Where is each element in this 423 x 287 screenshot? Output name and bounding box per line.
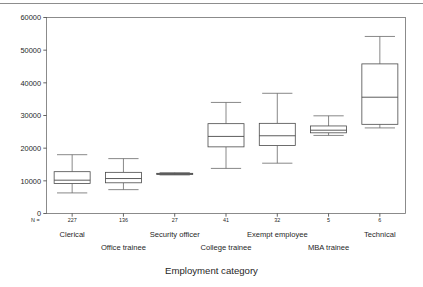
category-label: College trainee	[200, 243, 251, 252]
box-plot-item	[208, 102, 244, 168]
box-plots	[54, 36, 398, 192]
box-plot-item	[105, 159, 141, 190]
box-plot-item	[259, 93, 295, 163]
n-equals-label: N =	[31, 217, 40, 223]
category-label: Security officer	[150, 230, 201, 239]
n-count-label: 32	[274, 217, 280, 223]
box-plot-item	[54, 155, 90, 193]
category-label: Office trainee	[101, 243, 146, 252]
n-count-label: 136	[119, 217, 128, 223]
y-axis-ticks: 6000050000400003000020000100000	[20, 13, 46, 218]
category-label: Clerical	[59, 230, 85, 239]
n-count-label: 27	[172, 217, 178, 223]
n-count-label: 6	[378, 217, 381, 223]
n-labels: 22713627413256	[68, 217, 382, 223]
n-count-label: 5	[327, 217, 330, 223]
y-tick-label: 60000	[20, 13, 41, 22]
boxplot-figure: 6000050000400003000020000100000 22713627…	[0, 0, 423, 287]
page-top-rule	[0, 3, 423, 4]
category-label: Technical	[364, 230, 396, 239]
box-plot-item	[157, 173, 193, 175]
x-axis-title: Employment category	[165, 265, 258, 276]
y-tick-label: 10000	[20, 177, 41, 186]
category-label: Exempt employee	[247, 230, 308, 239]
y-tick-label: 40000	[20, 79, 41, 88]
category-labels: ClericalOffice traineeSecurity officerCo…	[59, 230, 396, 252]
y-tick-label: 20000	[20, 144, 41, 153]
box-plot-item	[362, 36, 398, 127]
n-count-label: 227	[68, 217, 77, 223]
category-label: MBA trainee	[308, 243, 349, 252]
n-count-label: 41	[223, 217, 229, 223]
y-tick-label: 50000	[20, 46, 41, 55]
box-plot-item	[311, 116, 347, 136]
y-tick-label: 30000	[20, 111, 41, 120]
boxplot-chart: 6000050000400003000020000100000 22713627…	[0, 0, 423, 287]
